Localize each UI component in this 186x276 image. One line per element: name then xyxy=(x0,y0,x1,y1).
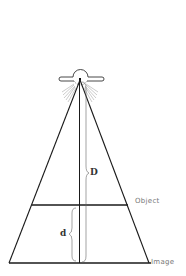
object-image-distance-brace xyxy=(69,208,76,261)
object-label: Object xyxy=(135,198,160,205)
magnification-diagram: D d Object Image xyxy=(0,0,186,276)
source-image-distance-brace xyxy=(82,82,89,262)
source-image-distance-label: D xyxy=(90,168,98,177)
object-image-distance-label: d xyxy=(60,229,66,238)
image-label: Image xyxy=(151,259,174,266)
beam-left-edge xyxy=(9,80,80,263)
